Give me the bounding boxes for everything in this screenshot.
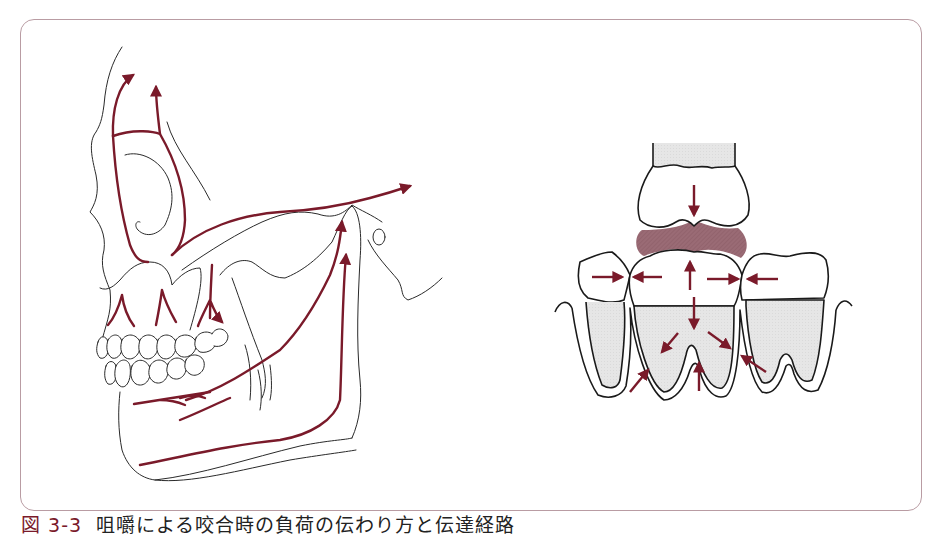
force-path-orbit-arch	[113, 131, 185, 255]
ear-canal	[373, 229, 385, 245]
face-profile-outline	[90, 47, 122, 340]
mandible-outline	[119, 392, 352, 480]
skull-panel	[90, 47, 442, 481]
orbit-outline	[125, 154, 172, 235]
arrow-bone-up-left	[630, 370, 648, 392]
figure-number: 図 3-3	[21, 514, 82, 536]
muscle-line	[270, 365, 272, 400]
lower-left-root	[586, 302, 625, 388]
maxilla-outline	[100, 262, 201, 330]
force-path-canine-root-2	[156, 290, 176, 325]
mastoid-outline	[368, 240, 442, 300]
muscle-line	[258, 370, 261, 410]
lower-teeth	[105, 355, 205, 387]
skull-force-paths	[108, 75, 410, 465]
force-path-canine-root	[108, 295, 134, 326]
force-path-lower-branch	[180, 398, 230, 420]
upper-teeth	[97, 329, 228, 359]
zygomatic-arch-outline	[182, 205, 382, 270]
figure-caption: 図 3-3咀嚼による咬合時の負荷の伝わり方と伝達経路	[21, 514, 515, 536]
teeth-panel	[555, 143, 852, 400]
figure-caption-text: 咀嚼による咬合時の負荷の伝わり方と伝達経路	[96, 514, 515, 536]
force-path-orbit-upper	[156, 87, 160, 134]
upper-tooth-bone	[653, 143, 735, 168]
condyle-outline	[352, 206, 361, 438]
force-path-molar-branch	[134, 392, 210, 405]
force-path-molar-upper	[198, 265, 222, 326]
lower-right-molar-crown	[741, 253, 829, 300]
force-path-nasal-upper	[113, 75, 133, 136]
